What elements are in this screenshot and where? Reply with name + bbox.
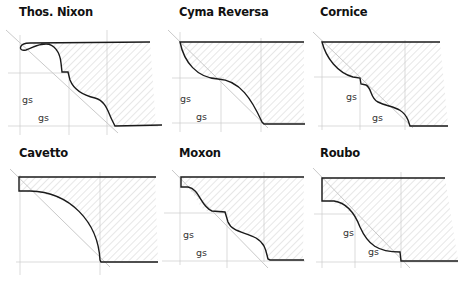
gs-label: gs	[196, 247, 207, 258]
panel-cornice: gs gs	[313, 32, 448, 130]
gs-label: gs	[180, 93, 191, 104]
panel-cyma-reversa: gs gs	[168, 30, 305, 132]
gs-label: gs	[368, 246, 379, 257]
panel-cavetto	[10, 169, 158, 275]
gs-label: gs	[183, 229, 194, 240]
panel-moxon: gs gs	[162, 170, 305, 268]
panel-title: Cyma Reversa	[179, 5, 269, 19]
gs-label: gs	[346, 91, 357, 102]
gs-label: gs	[38, 112, 49, 123]
panel-roubo: gs gs	[313, 168, 458, 268]
moulding-diagrams: gs gs gs gs gs gs	[0, 0, 468, 281]
gs-label: gs	[372, 112, 383, 123]
gs-label: gs	[196, 111, 207, 122]
panel-title: Moxon	[179, 146, 221, 160]
panel-title: Cornice	[320, 5, 367, 19]
gs-label: gs	[22, 94, 33, 105]
panel-title: Roubo	[320, 146, 360, 160]
panel-thos-nixon: gs gs	[6, 30, 162, 135]
gs-label: gs	[343, 227, 354, 238]
panel-title: Cavetto	[19, 146, 68, 160]
panel-title: Thos. Nixon	[19, 5, 93, 19]
